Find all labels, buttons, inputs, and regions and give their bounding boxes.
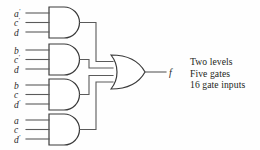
and-gate-2: b c′ d	[14, 44, 113, 75]
and-gate-1-body	[49, 7, 80, 38]
and-gate-1-input-label-3: d	[14, 28, 19, 38]
annotation-block: Two levels Five gates 16 gate inputs	[190, 56, 245, 91]
and-gate-4-input-label-3: d′	[14, 133, 21, 145]
annotation-gate-inputs: 16 gate inputs	[190, 79, 245, 91]
or-gate: f	[111, 55, 173, 89]
output-label-f: f	[169, 67, 173, 78]
and-gate-3-input-label-1: b	[14, 81, 19, 91]
and-gate-3: b c d′	[14, 76, 113, 111]
and-gate-3-body	[49, 79, 80, 110]
or-gate-body	[111, 55, 145, 89]
logic-circuit-figure: a′ c′ d b c′ d b c d′	[0, 0, 260, 150]
annotation-gates: Five gates	[190, 68, 245, 80]
and-gate-4-output-wire	[80, 82, 114, 130]
and-gate-2-input-label-3: d	[14, 65, 19, 75]
and-gate-2-body	[49, 44, 79, 75]
and-gate-4-body	[49, 114, 80, 145]
and-gate-1-output-wire	[80, 23, 114, 62]
and-gate-4-input-label-1: a	[14, 116, 19, 126]
and-gate-2-input-label-2: c′	[14, 53, 20, 65]
and-gate-1-input-label-2: c′	[14, 16, 20, 28]
annotation-levels: Two levels	[190, 56, 245, 68]
and-gate-3-input-label-3: d′	[14, 98, 21, 110]
